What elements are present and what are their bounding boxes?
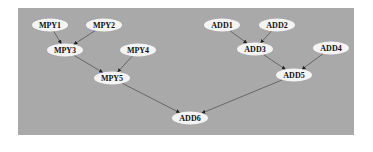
node-add1: ADD1 (204, 19, 240, 32)
node-add3: ADD3 (237, 43, 273, 56)
edge-mpy3-to-mpy5 (74, 56, 102, 73)
node-add4: ADD4 (313, 42, 349, 55)
node-add5: ADD5 (276, 69, 312, 82)
nodes-layer: MPY1MPY2MPY3MPY4MPY5ADD1ADD2ADD3ADD4ADD5… (32, 19, 349, 125)
edge-mpy1-to-mpy3 (54, 31, 61, 43)
edge-mpy4-to-mpy5 (118, 56, 133, 72)
node-label: ADD1 (211, 21, 232, 30)
node-label: MPY1 (39, 21, 61, 30)
node-add2: ADD2 (259, 19, 295, 32)
edge-add2-to-add3 (261, 31, 272, 43)
edge-add1-to-add3 (230, 31, 247, 43)
node-label: ADD3 (244, 45, 265, 54)
edge-mpy2-to-mpy3 (74, 31, 95, 45)
node-label: MPY4 (127, 46, 149, 55)
node-label: MPY5 (101, 74, 123, 83)
node-label: ADD6 (179, 114, 200, 123)
node-mpy4: MPY4 (120, 44, 156, 57)
node-add6: ADD6 (172, 112, 208, 125)
dependency-graph: MPY1MPY2MPY3MPY4MPY5ADD1ADD2ADD3ADD4ADD5… (0, 0, 373, 152)
node-mpy1: MPY1 (32, 19, 68, 32)
node-label: MPY3 (54, 46, 76, 55)
edge-mpy5-to-add6 (122, 83, 179, 112)
node-mpy3: MPY3 (47, 44, 83, 57)
edge-add3-to-add5 (264, 55, 286, 70)
edge-add5-to-add6 (202, 80, 282, 113)
node-label: ADD5 (283, 71, 304, 80)
node-mpy5: MPY5 (94, 72, 130, 85)
node-label: ADD2 (266, 21, 287, 30)
node-label: MPY2 (93, 21, 115, 30)
node-mpy2: MPY2 (86, 19, 122, 32)
node-label: ADD4 (320, 44, 341, 53)
edge-add4-to-add5 (302, 54, 323, 69)
